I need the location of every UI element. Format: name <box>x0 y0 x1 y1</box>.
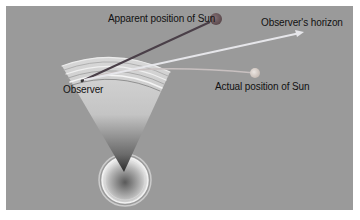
observer-point-icon <box>81 80 84 83</box>
arrowhead-icon <box>295 30 304 37</box>
actual-sun-label: Actual position of Sun <box>215 81 310 92</box>
refraction-diagram <box>0 0 360 220</box>
observer-label: Observer <box>63 84 103 95</box>
horizon-label: Observer's horizon <box>261 17 343 28</box>
apparent-sun-label: Apparent position of Sun <box>108 13 215 24</box>
actual-sun-icon <box>250 68 260 78</box>
horizon-line <box>84 30 304 80</box>
